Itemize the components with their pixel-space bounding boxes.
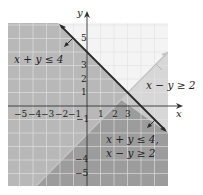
svg-text:−4: −4 [28, 109, 42, 119]
x-tick-labels: −5 −4 −3 −2 −1 1 2 3 [14, 109, 131, 119]
label-x-minus-y-ge-2: x − y ≥ 2 [146, 79, 196, 91]
svg-text:−2: −2 [55, 109, 68, 119]
svg-text:5: 5 [81, 33, 87, 43]
svg-text:1: 1 [81, 87, 87, 97]
svg-text:−5: −5 [14, 109, 28, 119]
svg-text:−1: −1 [76, 114, 89, 124]
x-axis-label: x [176, 108, 182, 119]
label-solution-line1: x + y ≤ 4, [106, 133, 159, 145]
y-axis-label: y [76, 7, 83, 18]
label-solution-line2: x − y ≥ 2 [106, 147, 156, 159]
svg-text:2: 2 [112, 109, 118, 119]
svg-text:−3: −3 [41, 109, 55, 119]
svg-text:2: 2 [81, 74, 87, 84]
svg-text:3: 3 [125, 109, 131, 119]
svg-text:−4: −4 [75, 154, 89, 164]
svg-text:1: 1 [98, 109, 104, 119]
label-x-plus-y-le-4: x + y ≤ 4 [14, 53, 63, 65]
inequality-graph: y x −5 −4 −3 −2 −1 1 2 3 5 3 2 1 −1 −4 −… [0, 0, 203, 195]
svg-text:3: 3 [81, 60, 87, 70]
svg-text:−5: −5 [75, 168, 89, 178]
